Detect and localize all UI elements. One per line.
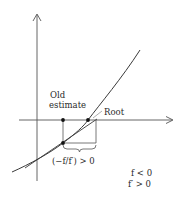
- root-label: Root: [104, 107, 125, 117]
- condition-fprime-label: f′ > 0: [128, 179, 151, 189]
- old-label: Old: [50, 90, 66, 100]
- estimate-label: estimate: [49, 100, 86, 110]
- condition-f-label: f < 0: [131, 168, 152, 178]
- root-point: [86, 118, 90, 122]
- old-estimate-curve-point: [61, 141, 65, 145]
- old-estimate-axis-point: [61, 118, 65, 122]
- step-brace: [63, 145, 96, 152]
- y-axis: [33, 14, 41, 181]
- step-label: (−f/f′) > 0: [52, 156, 95, 166]
- newton-method-diagram: Old estimate Root (−f/f′) > 0 f < 0 f′ >…: [0, 0, 182, 197]
